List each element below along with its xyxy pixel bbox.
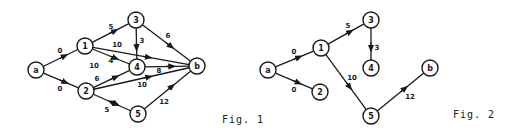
arrow-icon: [111, 102, 116, 104]
node-label: 4: [368, 64, 374, 73]
network-diagram: 00541010610536812a12345b 00531012a12345b: [0, 0, 509, 132]
edge-weight-label: 4: [109, 57, 114, 65]
edge-1-5: [326, 54, 367, 109]
node-b: b: [189, 58, 205, 74]
arrow-icon: [143, 56, 149, 57]
node-b: b: [422, 60, 438, 76]
arrow-icon: [401, 88, 406, 92]
figure-1-graph: 00541010610536812a12345b: [28, 12, 205, 122]
figure-1-caption: Fig. 1: [222, 114, 264, 125]
edge-weight-label: 0: [58, 47, 63, 55]
edge-weight-label: 5: [105, 106, 110, 114]
edge-weight-label: 5: [346, 22, 351, 30]
edge-weight-label: 12: [405, 93, 415, 101]
figure-2-caption: Fig. 2: [453, 109, 495, 120]
node-1: 1: [77, 38, 93, 54]
arrow-icon: [346, 82, 350, 87]
edge-weight-label: 0: [58, 85, 63, 93]
node-a: a: [28, 62, 44, 78]
node-label: 2: [317, 88, 323, 97]
node-4: 4: [129, 59, 145, 75]
edge-weight-label: 12: [159, 98, 169, 106]
node-label: 1: [82, 42, 88, 51]
node-a: a: [260, 62, 276, 78]
node-label: 5: [368, 112, 374, 121]
node-label: 1: [318, 44, 324, 53]
edge-weight-label: 0: [292, 48, 297, 56]
arrow-icon: [345, 32, 350, 35]
node-1: 1: [313, 40, 329, 56]
arrow-icon: [143, 77, 149, 78]
node-5: 5: [363, 108, 379, 124]
edge-3-b: [142, 25, 190, 61]
arrow-icon: [111, 77, 116, 80]
node-label: b: [194, 62, 200, 71]
edge-weight-label: 0: [292, 86, 297, 94]
node-5: 5: [130, 106, 146, 122]
arrow-icon: [60, 80, 66, 82]
node-2: 2: [78, 83, 94, 99]
edge-weight-label: 10: [112, 41, 122, 49]
node-label: 5: [135, 110, 141, 119]
edge-weight-label: 10: [347, 74, 357, 82]
edge-weight-label: 6: [95, 75, 100, 83]
node-3: 3: [128, 12, 144, 28]
node-label: a: [265, 66, 270, 75]
node-label: a: [33, 66, 38, 75]
arrow-icon: [168, 86, 173, 90]
edge-weight-label: 5: [109, 23, 114, 31]
edge-weight-label: 10: [89, 62, 99, 70]
arrow-icon: [294, 57, 300, 59]
arrow-icon: [60, 56, 65, 59]
edge-weight-label: 6: [166, 32, 171, 40]
edge-weight-label: 3: [140, 37, 145, 45]
node-label: 3: [133, 16, 139, 25]
node-label: 2: [83, 87, 89, 96]
figure-2-graph: 00531012a12345b: [260, 12, 438, 124]
arrow-icon: [293, 81, 299, 83]
arrow-icon: [110, 31, 115, 34]
edge-weight-label: 10: [137, 81, 147, 89]
node-3: 3: [363, 12, 379, 28]
edge-weight-label: 8: [157, 67, 162, 75]
node-label: 3: [368, 16, 374, 25]
node-2: 2: [312, 84, 328, 100]
arrow-icon: [167, 43, 172, 47]
node-label: 4: [134, 63, 140, 72]
node-4: 4: [363, 60, 379, 76]
edge-weight-label: 3: [375, 44, 380, 52]
edge-5-b: [377, 73, 424, 111]
node-label: b: [427, 64, 433, 73]
